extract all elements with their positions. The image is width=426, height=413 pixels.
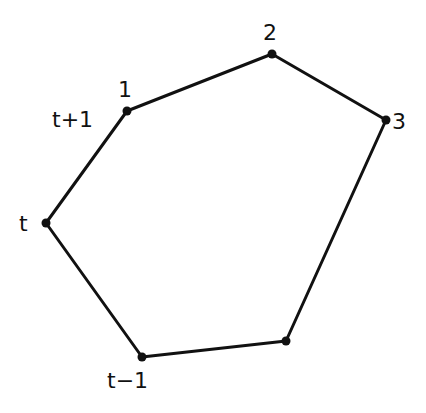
label-vertex-2: 2 [263, 20, 277, 45]
label-vertex-t-minus-1: t−1 [107, 368, 148, 393]
polygon-outline [46, 54, 386, 357]
vertex-points [42, 50, 391, 362]
label-vertex-3: 3 [392, 109, 406, 134]
polygon-diagram: 1 2 3 t−1 t t+1 [0, 0, 426, 413]
vertex-dot-v4 [282, 337, 291, 346]
vertex-dot-v2 [268, 50, 277, 59]
vertex-dot-vtm1 [138, 353, 147, 362]
vertex-dot-v1 [123, 107, 132, 116]
label-t-plus-1: t+1 [52, 107, 93, 132]
label-vertex-1: 1 [118, 77, 132, 102]
vertex-dot-vt [42, 219, 51, 228]
vertex-dot-v3 [382, 116, 391, 125]
label-vertex-t: t [19, 211, 28, 236]
